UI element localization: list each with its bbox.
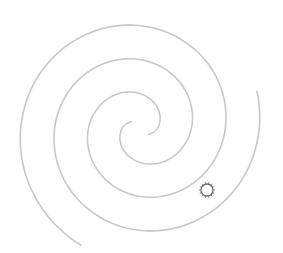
spiral-figure — [0, 0, 283, 253]
background — [0, 0, 283, 253]
